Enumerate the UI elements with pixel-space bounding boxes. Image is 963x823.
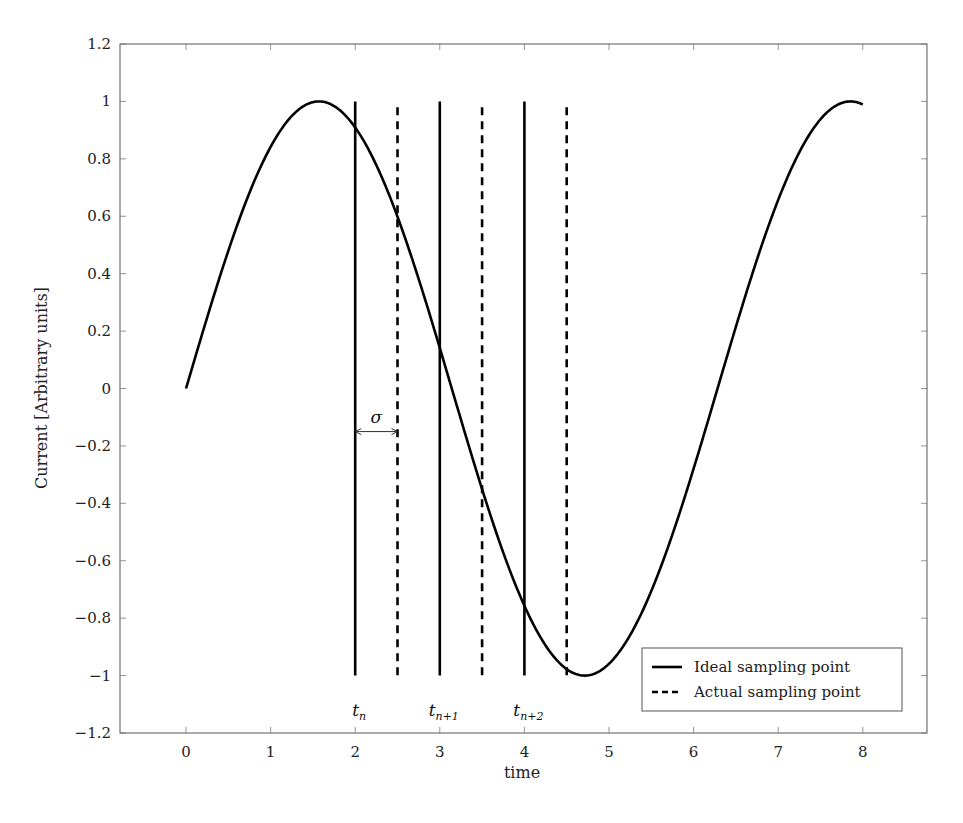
legend-label: Actual sampling point [693,683,861,701]
y-tick-label: −0.2 [75,437,111,455]
sample-time-label: tn+1 [429,700,459,723]
y-tick-label: 0.2 [87,322,111,340]
x-tick-label: 7 [773,743,783,761]
x-tick-label: 3 [435,743,445,761]
y-tick-label: 1 [101,92,111,110]
x-tick-label: 8 [858,743,868,761]
x-tick-label: 0 [181,743,191,761]
x-axis-label: time [504,763,540,782]
y-tick-label: −1.2 [75,724,111,742]
x-tick-label: 4 [520,743,530,761]
annotations: σtntn+1tn+2 [352,407,543,723]
sigma-label: σ [371,407,383,427]
sample-time-label: tn [352,700,366,723]
x-tick-label: 5 [604,743,614,761]
y-tick-label: −0.4 [75,494,111,512]
x-tick-label: 2 [350,743,360,761]
legend-label: Ideal sampling point [694,658,850,676]
y-tick-label: 0.6 [87,207,111,225]
y-tick-label: −1 [89,667,111,685]
y-tick-label: 0.8 [87,150,111,168]
legend: Ideal sampling pointActual sampling poin… [642,648,902,711]
chart: 012345678−1.2−1−0.8−0.6−0.4−0.200.20.40.… [0,0,963,823]
plot-area [120,44,927,733]
x-tick-label: 1 [266,743,276,761]
sample-time-label: tn+2 [513,700,543,723]
y-tick-label: −0.8 [75,609,111,627]
figure-caption-partial [10,812,950,823]
y-tick-label: −0.6 [75,552,111,570]
y-tick-label: 1.2 [87,35,111,53]
y-tick-label: 0 [101,380,111,398]
y-tick-label: 0.4 [87,265,111,283]
x-tick-label: 6 [689,743,699,761]
y-axis-label: Current [Arbitrary units] [32,287,51,489]
